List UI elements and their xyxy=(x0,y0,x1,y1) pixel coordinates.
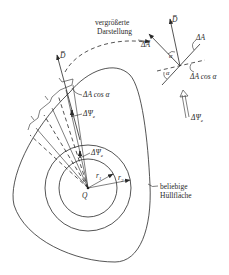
radius-r2-arrow xyxy=(88,180,130,188)
d-vector-label: D̅ xyxy=(59,51,66,60)
flux-outer-label: ΔΨe xyxy=(82,109,96,119)
projected-area-label-right: ΔA cos α xyxy=(189,72,218,81)
radius-r1-label: r1 xyxy=(96,171,101,181)
surface-label-line-1: beliebige xyxy=(160,182,188,191)
flux-inner-label: ΔΨe xyxy=(90,148,104,158)
flux-detail-label: ΔΨe xyxy=(190,113,204,123)
area-element-label: ΔA xyxy=(195,33,205,42)
projected-area-dashed-line xyxy=(157,60,205,71)
magnified-view-label-line-2: Darstellung xyxy=(97,27,132,36)
radial-dashed-line xyxy=(30,135,88,188)
gauss-flux-diagram: D̅ ΔA cos α ΔΨe ΔΨe Q r1 r2 beliebige Hü… xyxy=(0,0,229,275)
radius-r2-label: r2 xyxy=(118,173,124,183)
radial-dashed-line xyxy=(44,115,88,188)
surface-tick xyxy=(45,96,48,100)
surface-label-line-2: Hüllfläche xyxy=(160,191,192,200)
surface-tick xyxy=(59,78,62,82)
projected-area-leader-right xyxy=(190,64,194,72)
flux-tube-line xyxy=(73,85,88,188)
stepped-surface-segments xyxy=(28,79,73,130)
flux-tube-line xyxy=(66,90,88,188)
area-vector-arrow xyxy=(149,34,180,66)
flux-outer-leader xyxy=(74,114,82,116)
surface-tick xyxy=(31,116,34,120)
arbitrary-enclosing-surface xyxy=(13,68,150,262)
angle-alpha-upper: α xyxy=(169,52,173,59)
angle-alpha-lower: α xyxy=(166,69,170,76)
flux-tube-line xyxy=(52,108,88,188)
flux-hollow-arrow xyxy=(180,90,189,118)
magnified-view-label-line-1: vergrößerte xyxy=(95,18,130,27)
projected-area-label-left: ΔA cos α xyxy=(82,90,111,99)
charge-label: Q xyxy=(82,191,88,200)
area-vector-label: ΔA̅ xyxy=(140,40,151,49)
magnification-dashed-arc xyxy=(65,41,145,72)
surface-label-leader xyxy=(148,184,158,187)
inset-d-label: D̅ xyxy=(171,15,178,24)
